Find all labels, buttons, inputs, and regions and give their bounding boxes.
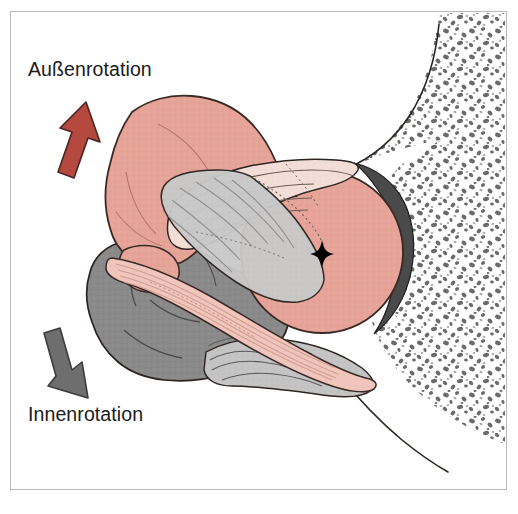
label-internal-rotation: Innenrotation — [28, 403, 143, 426]
figure-root: Außenrotation Innenrotation — [0, 0, 518, 514]
external-rotation-arrow — [58, 102, 100, 178]
label-external-rotation: Außenrotation — [28, 58, 152, 81]
internal-rotation-arrow — [44, 328, 88, 398]
